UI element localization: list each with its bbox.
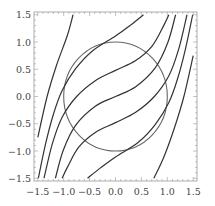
y-tick-label: −1.5: [8, 173, 31, 184]
y-axis-tick-labels: −1.5−1.0−0.50.00.51.01.5: [8, 9, 31, 184]
x-tick-label: −0.5: [78, 186, 101, 197]
y-tick-label: 1.0: [16, 37, 31, 48]
x-axis-tick-labels: −1.5−1.0−0.50.00.51.01.5: [26, 186, 200, 197]
y-tick-label: 0.5: [16, 64, 31, 75]
series-curve-6: [88, 15, 193, 179]
series-curve-4-center: [55, 15, 175, 179]
x-tick-label: 1.5: [186, 186, 201, 197]
x-tick-label: 0.0: [108, 186, 123, 197]
x-tick-label: 0.5: [134, 186, 149, 197]
x-tick-label: −1.0: [52, 186, 75, 197]
y-tick-label: 1.5: [16, 9, 31, 20]
x-tick-label: 1.0: [160, 186, 175, 197]
y-tick-label: −0.5: [8, 118, 31, 129]
chart-plot: −1.5−1.0−0.50.00.51.01.5 −1.5−1.0−0.50.0…: [0, 0, 215, 206]
y-tick-label: −1.0: [8, 146, 31, 157]
series-curve-2: [38, 15, 143, 179]
x-tick-label: −1.5: [26, 186, 49, 197]
y-tick-label: 0.0: [16, 91, 31, 102]
series-curve-5: [62, 15, 187, 179]
chart-series-layer: [38, 15, 193, 179]
series-curve-3: [44, 15, 169, 179]
series-curve-7: [154, 56, 193, 179]
